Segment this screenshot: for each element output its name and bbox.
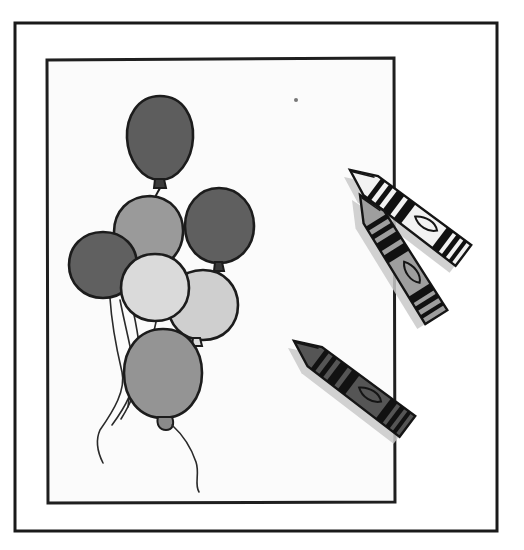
artwork-svg bbox=[0, 0, 524, 550]
balloon-knot bbox=[214, 262, 224, 271]
balloon-light-center bbox=[121, 254, 189, 321]
balloon-knot bbox=[154, 179, 166, 188]
illustration-canvas: Balloons and Crayons Drawing Scanned cli… bbox=[0, 0, 524, 550]
balloon-knot bbox=[157, 417, 173, 430]
paper-speck bbox=[294, 98, 298, 102]
